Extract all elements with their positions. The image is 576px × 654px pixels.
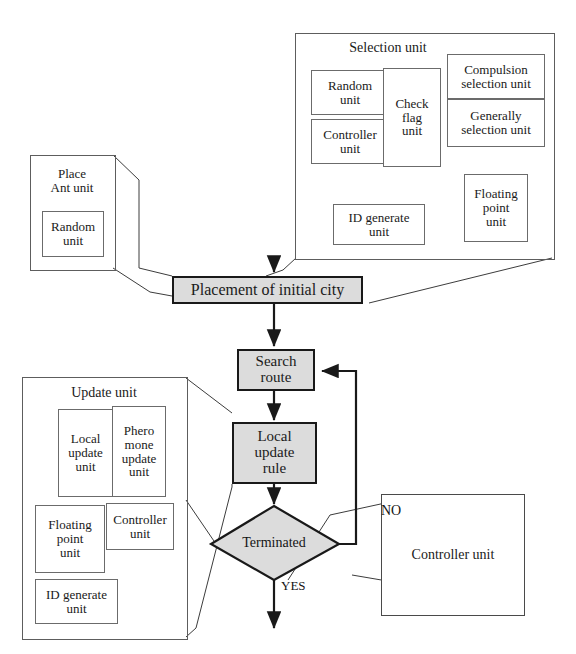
flow-node-local-update-rule-label: Localupdaterule xyxy=(255,429,295,477)
place-ant-subunit-random: Randomunit xyxy=(42,211,104,257)
edge-label-yes: YES xyxy=(281,578,306,594)
selection-subunit-compulsion: Compulsionselection unit xyxy=(447,54,545,99)
selection-subunit-id-generate-label: ID generateunit xyxy=(349,211,410,239)
update-subunit-pheromone-update: Pheromoneupdateunit xyxy=(112,406,166,497)
selection-subunit-random: Randomunit xyxy=(311,70,389,115)
controller-unit-label: Controller unit xyxy=(412,548,495,563)
update-subunit-controller-label: Controllerunit xyxy=(113,513,166,541)
leader-update-to-flow xyxy=(186,378,232,637)
update-subunit-id-generate-label: ID generateunit xyxy=(46,588,107,616)
selection-subunit-controller: Controllerunit xyxy=(311,119,389,164)
edge-label-no: NO xyxy=(381,503,401,519)
group-update-unit-title: Update unit xyxy=(40,385,168,401)
update-subunit-floating-point: Floatingpointunit xyxy=(35,505,105,573)
flow-node-search-route: Searchroute xyxy=(237,349,315,391)
update-subunit-floating-point-label: Floatingpointunit xyxy=(48,518,91,559)
flow-node-placement: Placement of initial city xyxy=(172,276,363,304)
flow-node-placement-label: Placement of initial city xyxy=(191,282,344,299)
selection-subunit-check-flag: Checkflagunit xyxy=(383,68,441,167)
leader-placeant-to-placement xyxy=(113,155,172,296)
selection-subunit-floating-point: Floatingpointunit xyxy=(464,174,528,242)
selection-subunit-floating-point-label: Floatingpointunit xyxy=(474,187,517,228)
update-subunit-local-update-label: Localupdateunit xyxy=(68,432,103,473)
update-subunit-pheromone-update-label: Pheromoneupdateunit xyxy=(122,424,157,479)
no-feedback-loop xyxy=(322,371,356,544)
flow-node-terminated-label: Terminated xyxy=(214,535,334,551)
diagram-canvas: Selection unit Randomunit Controllerunit… xyxy=(0,0,576,654)
flow-node-local-update-rule: Localupdaterule xyxy=(232,422,317,484)
group-selection-unit-title: Selection unit xyxy=(318,40,458,56)
update-subunit-id-generate: ID generateunit xyxy=(35,579,118,624)
selection-subunit-check-flag-label: Checkflagunit xyxy=(395,97,428,138)
update-subunit-controller: Controllerunit xyxy=(106,503,174,550)
selection-subunit-compulsion-label: Compulsionselection unit xyxy=(461,63,531,91)
controller-unit-box: Controller unit xyxy=(381,494,525,616)
update-subunit-local-update: Localupdateunit xyxy=(58,409,113,497)
selection-subunit-generally-label: Generallyselection unit xyxy=(461,109,531,137)
selection-subunit-generally: Generallyselection unit xyxy=(447,99,545,147)
place-ant-subunit-random-label: Randomunit xyxy=(51,220,95,248)
selection-subunit-id-generate: ID generateunit xyxy=(333,204,425,245)
flow-node-search-route-label: Searchroute xyxy=(256,354,297,386)
selection-subunit-random-label: Randomunit xyxy=(328,79,372,107)
selection-subunit-controller-label: Controllerunit xyxy=(323,128,376,156)
group-place-ant-unit-title: PlaceAnt unit xyxy=(34,167,110,196)
